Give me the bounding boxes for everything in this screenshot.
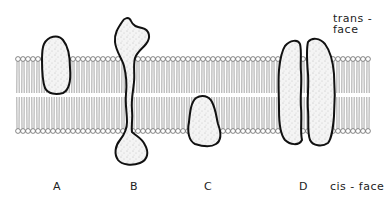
protein-b-label: B bbox=[130, 181, 138, 192]
protein-a bbox=[42, 37, 70, 94]
protein-c-label: C bbox=[204, 181, 212, 192]
protein-c bbox=[188, 96, 220, 146]
trans-face-label: trans - face bbox=[333, 13, 391, 35]
protein-d-subunit-2 bbox=[307, 39, 335, 146]
cis-face-label: cis - face bbox=[330, 181, 384, 192]
protein-d-label: D bbox=[299, 181, 308, 192]
protein-d-subunit-1 bbox=[279, 41, 302, 144]
protein-a-label: A bbox=[53, 181, 61, 192]
